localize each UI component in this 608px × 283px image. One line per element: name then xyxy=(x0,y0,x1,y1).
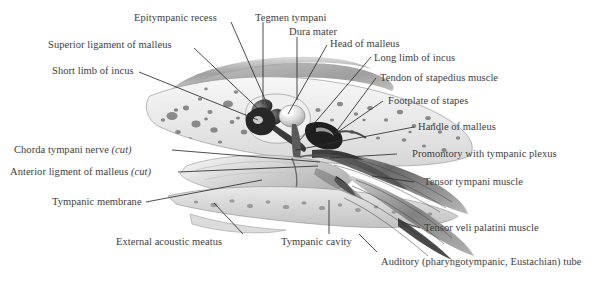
label-superior-ligament-of-malleus: Superior ligament of malleus xyxy=(48,39,172,51)
label-dura-mater: Dura mater xyxy=(289,26,337,38)
label-handle-of-malleus: Handle of malleus xyxy=(418,121,496,133)
label-anterior-ligament-of-malleus-text: Anterior ligment of malleus xyxy=(10,166,131,177)
label-chorda-tympani-nerve-text: Chorda tympani nerve xyxy=(14,144,112,155)
label-long-limb-of-incus: Long limb of incus xyxy=(374,52,455,64)
label-auditory-tube: Auditory (pharyngotympanic, Eustachian) … xyxy=(381,256,581,268)
label-anterior-ligament-of-malleus-cut: (cut) xyxy=(131,166,151,177)
label-chorda-tympani-nerve-cut: (cut) xyxy=(112,144,132,155)
label-chorda-tympani-nerve: Chorda tympani nerve (cut) xyxy=(14,144,132,156)
label-tensor-tympani-muscle: Tensor tympani muscle xyxy=(424,176,523,188)
label-tympanic-cavity: Tympanic cavity xyxy=(281,236,352,248)
label-epitympanic-recess: Epitympanic recess xyxy=(134,12,217,24)
figure-canvas: Epitympanic recess Tegmen tympani Dura m… xyxy=(0,0,608,283)
label-promontory-with-tympanic-plexus: Promontory with tympanic plexus xyxy=(412,148,557,160)
label-tendon-of-stapedius-muscle: Tendon of stapedius muscle xyxy=(380,72,498,84)
label-tegmen-tympani: Tegmen tympani xyxy=(255,12,326,24)
label-tensor-veli-palatini-muscle: Tensor veli palatini muscle xyxy=(424,222,539,234)
label-footplate-of-stapes: Footplate of stapes xyxy=(388,95,468,107)
label-short-limb-of-incus: Short limb of incus xyxy=(52,65,134,77)
label-anterior-ligament-of-malleus: Anterior ligment of malleus (cut) xyxy=(10,166,151,178)
label-tympanic-membrane: Tympanic membrane xyxy=(52,196,142,208)
label-external-acoustic-meatus: External acoustic meatus xyxy=(116,236,222,248)
label-head-of-malleus: Head of malleus xyxy=(330,38,400,50)
